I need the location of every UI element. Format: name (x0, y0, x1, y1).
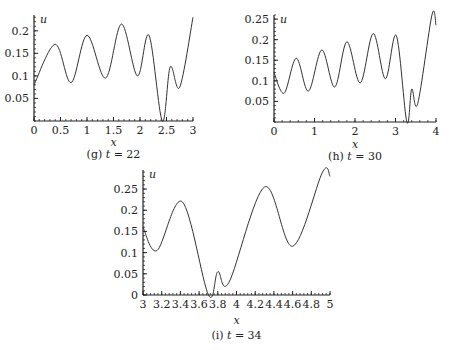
y-tick-label: 0.05 (5, 92, 30, 105)
x-tick-label: 3 (190, 124, 197, 137)
y-tick-label: 0.1 (252, 75, 270, 88)
axes: 012340.050.10.150.20.25 (245, 13, 440, 138)
x-tick-label: 0.5 (52, 124, 70, 137)
data-curve (34, 17, 193, 121)
x-tick-label: 3.8 (209, 298, 227, 311)
axes: 33.23.43.63.844.24.44.64.8500.050.10.150… (114, 170, 334, 311)
x-tick-label: 2 (137, 124, 144, 137)
axes: 00.511.522.530.050.10.150.2 (5, 15, 197, 137)
x-tick-label: 4 (233, 298, 240, 311)
x-tick-label: 1 (84, 124, 91, 137)
y-tick-label: 0.15 (245, 54, 270, 67)
x-tick-label: 5 (327, 298, 334, 311)
y-tick-label: 0.05 (245, 95, 270, 108)
y-axis-label: u (280, 13, 287, 26)
y-axis-label: u (149, 168, 156, 181)
y-tick-label: 0.15 (5, 47, 30, 60)
y-tick-label: 0.1 (12, 70, 30, 83)
y-tick-label: 0.1 (121, 247, 139, 260)
panel-caption: (h) t = 30 (328, 150, 382, 163)
y-axis-label: u (40, 13, 47, 26)
x-tick-label: 0 (31, 124, 38, 137)
x-tick-label: 2 (352, 125, 359, 138)
figure-canvas: 00.511.522.530.050.10.150.2ux(g) t = 22 … (0, 0, 452, 350)
x-tick-label: 4.8 (303, 298, 321, 311)
y-tick-label: 0.05 (114, 268, 139, 281)
plot-h: 012340.050.10.150.20.25ux(h) t = 30 (245, 11, 440, 163)
y-tick-label: 0.15 (114, 225, 139, 238)
y-tick-label: 0.2 (252, 34, 270, 47)
x-tick-label: 4.2 (246, 298, 264, 311)
x-tick-label: 3.4 (172, 298, 190, 311)
y-tick-label: 0.2 (12, 25, 30, 38)
x-tick-label: 1 (311, 125, 318, 138)
x-tick-label: 2.5 (158, 124, 176, 137)
x-tick-label: 3 (140, 298, 147, 311)
x-tick-label: 3 (392, 125, 399, 138)
x-tick-label: 0 (271, 125, 278, 138)
y-tick-label: 0 (131, 289, 138, 302)
x-tick-label: 4 (433, 125, 440, 138)
panel-caption: (g) t = 22 (87, 148, 141, 161)
plot-i: 33.23.43.63.844.24.44.64.8500.050.10.150… (114, 168, 334, 342)
data-curve (274, 11, 436, 123)
plot-g: 00.511.522.530.050.10.150.2ux(g) t = 22 (5, 13, 197, 161)
data-curve (143, 168, 330, 298)
x-tick-label: 4.4 (265, 298, 283, 311)
x-axis-label: x (233, 314, 240, 327)
x-tick-label: 3.6 (190, 298, 208, 311)
x-tick-label: 3.2 (153, 298, 171, 311)
y-tick-label: 0.25 (114, 183, 139, 196)
x-tick-label: 4.6 (284, 298, 302, 311)
y-tick-label: 0.25 (245, 13, 270, 26)
y-tick-label: 0.2 (121, 204, 139, 217)
panel-caption: (i) t = 34 (211, 329, 261, 342)
